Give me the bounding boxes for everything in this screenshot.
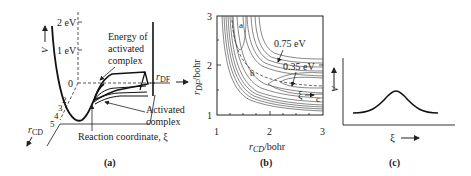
rcd-tick-2: 2	[62, 95, 67, 105]
y-tick-3: 3	[207, 11, 212, 22]
y-tick-1: 1	[207, 110, 212, 121]
rcd-tick-3: 3	[58, 103, 63, 113]
tick-2ev: 2 eV	[57, 17, 77, 28]
annotation-energy-line2: activated	[108, 43, 144, 54]
tick-0: 0	[68, 78, 73, 89]
rcd-tick-4: 4	[54, 111, 59, 121]
x-tick-2: 2	[267, 126, 272, 137]
annotation-complex-line1: Activated	[146, 104, 185, 115]
point-c: c	[316, 94, 320, 104]
point-b: b	[250, 68, 255, 78]
caption-b: (b)	[260, 157, 272, 169]
figure-canvas: V 2 eV 1 eV 0 2 3 4 5 rCD rDF Energy of …	[0, 0, 471, 176]
v-label: V	[330, 85, 340, 92]
contour-label-035: 0.35 eV	[283, 61, 315, 72]
xi-label: ξ	[298, 89, 303, 101]
xi-axis-label: ξ	[390, 131, 395, 144]
rcd-label: rCD	[28, 124, 43, 137]
annotation-complex-line2: complex	[146, 116, 180, 127]
contour-label-075: 0.75 eV	[274, 38, 306, 49]
panel-a: V 2 eV 1 eV 0 2 3 4 5 rCD rDF Energy of …	[27, 12, 188, 169]
caption-a: (a)	[104, 157, 116, 169]
rcd-arrow-icon	[27, 137, 32, 146]
panel-c: V ξ (c)	[330, 58, 455, 169]
energy-barrier-curve	[353, 91, 438, 113]
y-axis-title: rDF/bohr	[191, 59, 204, 95]
annotation-energy-line3: complex	[108, 55, 142, 66]
rdf-label: rDF	[156, 71, 171, 84]
caption-c: (c)	[389, 157, 400, 169]
panel-b: a b c ξ 0.75 eV 0.35 eV 3 2 1 1 2 3 rDF/…	[191, 11, 325, 169]
v-axis-label: V	[40, 46, 50, 53]
y-tick-2: 2	[207, 60, 212, 71]
tick-1ev: 1 eV	[57, 45, 77, 56]
x-axis-title: rCD/bohr	[249, 141, 286, 154]
point-a: a	[239, 20, 243, 30]
annotation-energy-line1: Energy of	[108, 31, 148, 42]
x-tick-3: 3	[320, 126, 325, 137]
rcd-tick-5: 5	[50, 119, 55, 129]
x-tick-1: 1	[214, 126, 219, 137]
annotation-reaction: Reaction coordinate, ξ	[78, 131, 168, 143]
